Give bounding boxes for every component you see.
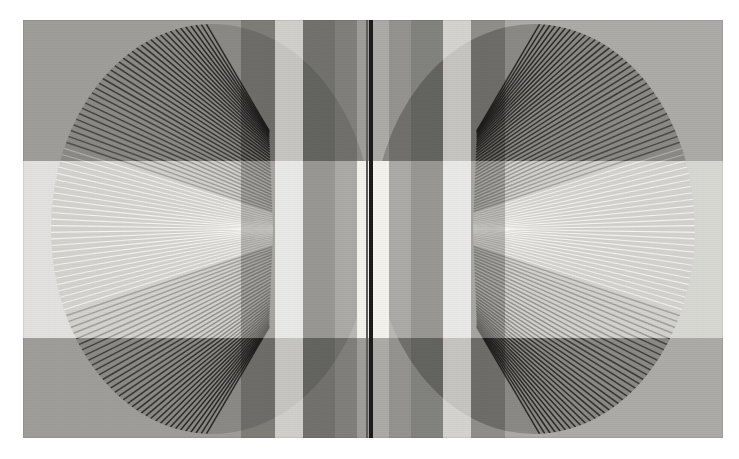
center-hairline [366, 20, 368, 438]
center-bright-stripe-right [373, 161, 389, 338]
artwork-page [0, 0, 739, 459]
vertical-band-3-left [303, 20, 335, 438]
artwork-plate [23, 20, 723, 438]
vertical-band-3-right [411, 20, 443, 438]
artwork-half-right [373, 20, 723, 438]
vertical-band-4-left [335, 20, 357, 438]
artwork-half-left [23, 20, 373, 438]
vertical-band-2-left [275, 20, 303, 438]
vertical-band-1-left [241, 20, 275, 438]
vertical-band-4-right [389, 20, 411, 438]
vertical-band-1-right [471, 20, 505, 438]
center-divider-line [369, 20, 373, 438]
vertical-band-2-right [443, 20, 471, 438]
